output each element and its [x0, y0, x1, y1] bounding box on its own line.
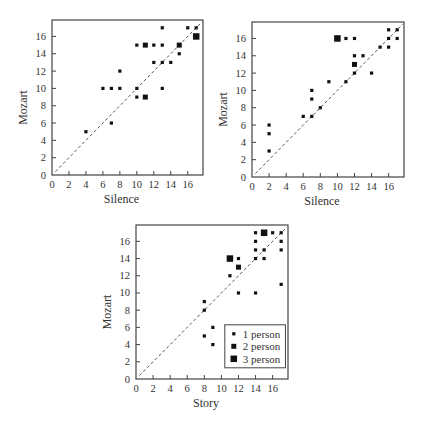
- data-point: [110, 87, 113, 90]
- y-tick-label: 6: [125, 322, 130, 333]
- data-point: [101, 87, 104, 90]
- data-point: [135, 44, 138, 47]
- data-point: [203, 334, 206, 337]
- y-tick-label: 14: [36, 48, 47, 59]
- data-point: [344, 80, 347, 83]
- data-point: [195, 26, 198, 29]
- x-tick-label: 8: [117, 179, 122, 190]
- x-axis-label: Silence: [304, 194, 339, 208]
- y-tick-label: 6: [41, 118, 46, 129]
- x-tick-label: 0: [133, 383, 138, 394]
- scatter-plot-story-vs-mozart: 02468101214160246810121416StoryMozart1 p…: [100, 225, 288, 410]
- data-point: [302, 115, 305, 118]
- y-tick-label: 8: [241, 102, 246, 113]
- y-tick-label: 2: [41, 152, 46, 163]
- data-point: [310, 115, 313, 118]
- data-point: [280, 248, 283, 251]
- y-tick-label: 0: [241, 172, 246, 183]
- x-tick-label: 2: [266, 181, 271, 192]
- data-point: [387, 46, 390, 49]
- data-point: [237, 291, 240, 294]
- legend-marker-2-person: [231, 344, 236, 349]
- data-point: [118, 69, 121, 72]
- y-tick-label: 12: [36, 66, 47, 77]
- data-point: [361, 54, 364, 57]
- data-point: [261, 229, 268, 236]
- legend-label: 3 person: [243, 353, 281, 365]
- data-point: [280, 240, 283, 243]
- y-axis-label: Mozart: [100, 294, 114, 329]
- x-tick-label: 12: [349, 181, 360, 192]
- legend-marker-1-person: [232, 332, 235, 335]
- scatter-plot-silence-vs-mozart-1: 02468101214160246810121416SilenceMozart: [16, 20, 203, 206]
- legend: 1 person2 person3 person: [225, 325, 286, 368]
- data-point: [177, 43, 182, 48]
- data-point: [237, 257, 240, 260]
- y-tick-label: 12: [120, 270, 131, 281]
- y-tick-label: 12: [236, 68, 247, 79]
- x-tick-label: 12: [149, 179, 160, 190]
- x-tick-label: 0: [249, 181, 254, 192]
- data-point: [378, 46, 381, 49]
- y-tick-label: 10: [120, 287, 131, 298]
- x-tick-label: 14: [366, 181, 377, 192]
- data-point: [353, 54, 356, 57]
- data-point: [310, 97, 313, 100]
- y-tick-label: 4: [241, 137, 247, 148]
- x-tick-label: 10: [132, 179, 143, 190]
- data-point: [352, 62, 357, 67]
- data-point: [344, 37, 347, 40]
- x-tick-label: 12: [233, 383, 244, 394]
- data-point: [254, 257, 257, 260]
- y-tick-label: 4: [41, 135, 47, 146]
- x-tick-label: 14: [250, 383, 261, 394]
- y-tick-label: 14: [120, 253, 131, 264]
- chart-figure: 02468101214160246810121416SilenceMozart …: [0, 0, 424, 423]
- data-point: [203, 300, 206, 303]
- data-point: [396, 37, 399, 40]
- data-point: [327, 80, 330, 83]
- data-point: [203, 309, 206, 312]
- data-point: [110, 121, 113, 124]
- x-tick-label: 16: [182, 179, 193, 190]
- data-point: [161, 26, 164, 29]
- y-tick-label: 0: [41, 170, 46, 181]
- x-tick-label: 16: [383, 181, 394, 192]
- y-tick-label: 10: [36, 83, 47, 94]
- x-tick-label: 6: [301, 181, 306, 192]
- y-tick-label: 2: [241, 154, 246, 165]
- data-point: [353, 71, 356, 74]
- data-point: [262, 257, 265, 260]
- data-point: [228, 274, 231, 277]
- x-tick-label: 4: [284, 181, 290, 192]
- data-point: [161, 44, 164, 47]
- y-tick-label: 14: [236, 50, 247, 61]
- y-tick-label: 0: [125, 374, 130, 385]
- x-tick-label: 2: [150, 383, 155, 394]
- data-point: [353, 37, 356, 40]
- x-tick-label: 10: [216, 383, 227, 394]
- y-tick-label: 8: [41, 100, 46, 111]
- y-tick-label: 4: [125, 339, 131, 350]
- data-point: [319, 106, 322, 109]
- x-tick-label: 10: [332, 181, 343, 192]
- y-tick-label: 16: [236, 33, 247, 44]
- data-point: [169, 61, 172, 64]
- x-tick-label: 8: [318, 181, 323, 192]
- data-point: [161, 87, 164, 90]
- data-point: [254, 240, 257, 243]
- data-point: [334, 35, 341, 42]
- data-point: [84, 130, 87, 133]
- data-point: [236, 265, 241, 270]
- x-axis-label: Story: [193, 396, 219, 410]
- data-point: [193, 33, 200, 40]
- data-point: [271, 231, 274, 234]
- data-point: [211, 326, 214, 329]
- x-tick-label: 2: [66, 179, 71, 190]
- data-point: [254, 291, 257, 294]
- x-tick-label: 8: [202, 383, 207, 394]
- data-point: [370, 71, 373, 74]
- data-point: [143, 95, 148, 100]
- data-point: [267, 132, 270, 135]
- data-point: [186, 26, 189, 29]
